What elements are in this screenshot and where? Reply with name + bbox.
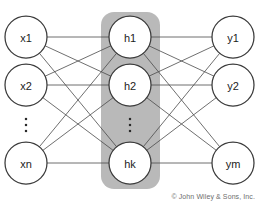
node-y2 — [212, 64, 254, 106]
node-y1 — [212, 16, 254, 58]
input-ellipsis-dot — [25, 118, 27, 120]
hidden-ellipsis-dot — [129, 118, 131, 120]
copyright-notice: © John Wiley & Sons, Inc. — [171, 193, 255, 200]
node-h2 — [109, 64, 151, 106]
node-ym — [212, 142, 254, 184]
neural-network-diagram: x1x2xnh1h2hky1y2ym © John Wiley & Sons, … — [0, 0, 259, 203]
input-ellipsis-dot — [25, 124, 27, 126]
network-canvas: x1x2xnh1h2hky1y2ym — [0, 0, 259, 203]
node-x1 — [5, 16, 47, 58]
hidden-ellipsis-dot — [129, 124, 131, 126]
hidden-ellipsis-dot — [129, 130, 131, 132]
input-ellipsis-dot — [25, 130, 27, 132]
node-hk — [109, 142, 151, 184]
node-group: x1x2xnh1h2hky1y2ym — [5, 16, 254, 184]
node-xn — [5, 142, 47, 184]
node-x2 — [5, 64, 47, 106]
node-h1 — [109, 16, 151, 58]
